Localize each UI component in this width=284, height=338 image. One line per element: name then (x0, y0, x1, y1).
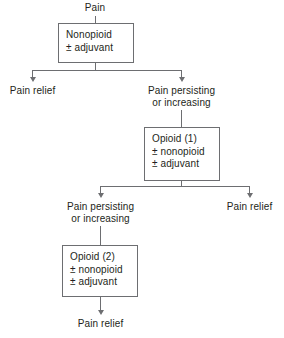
arrowhead-level2-right (247, 193, 253, 198)
connector-persist1-to-box2 (181, 110, 182, 127)
box-opioid-2-text: Opioid (2) ± nonopioid ± adjuvant (70, 251, 123, 289)
outcome-pain-persisting-2: Pain persisting or increasing (58, 201, 143, 224)
start-label: Pain (55, 2, 135, 14)
connector-start-to-box1 (95, 16, 96, 23)
split-bar-level2 (100, 186, 250, 187)
box-opioid-1: Opioid (1) ± nonopioid ± adjuvant (144, 127, 220, 181)
arrowhead-level1-right (179, 77, 185, 82)
arrowhead-level2-left (98, 193, 104, 198)
outcome-pain-relief-1: Pain relief (0, 85, 65, 97)
arrowhead-final (98, 310, 104, 315)
box-nonopioid-text: Nonopioid ± adjuvant (66, 29, 113, 54)
box-nonopioid: Nonopioid ± adjuvant (58, 23, 134, 63)
outcome-pain-relief-2: Pain relief (217, 201, 282, 213)
split-bar-level1 (32, 70, 182, 71)
pain-ladder-flowchart: Pain Nonopioid ± adjuvant Pain relief Pa… (0, 0, 284, 338)
arrowhead-level1-left (30, 77, 36, 82)
outcome-pain-persisting-1: Pain persisting or increasing (139, 85, 224, 108)
box-opioid-1-text: Opioid (1) ± nonopioid ± adjuvant (152, 133, 205, 171)
connector-box3-to-relief (100, 297, 101, 311)
outcome-pain-relief-3: Pain relief (68, 318, 133, 330)
box-opioid-2: Opioid (2) ± nonopioid ± adjuvant (62, 245, 138, 297)
connector-persist2-to-box3 (100, 226, 101, 245)
